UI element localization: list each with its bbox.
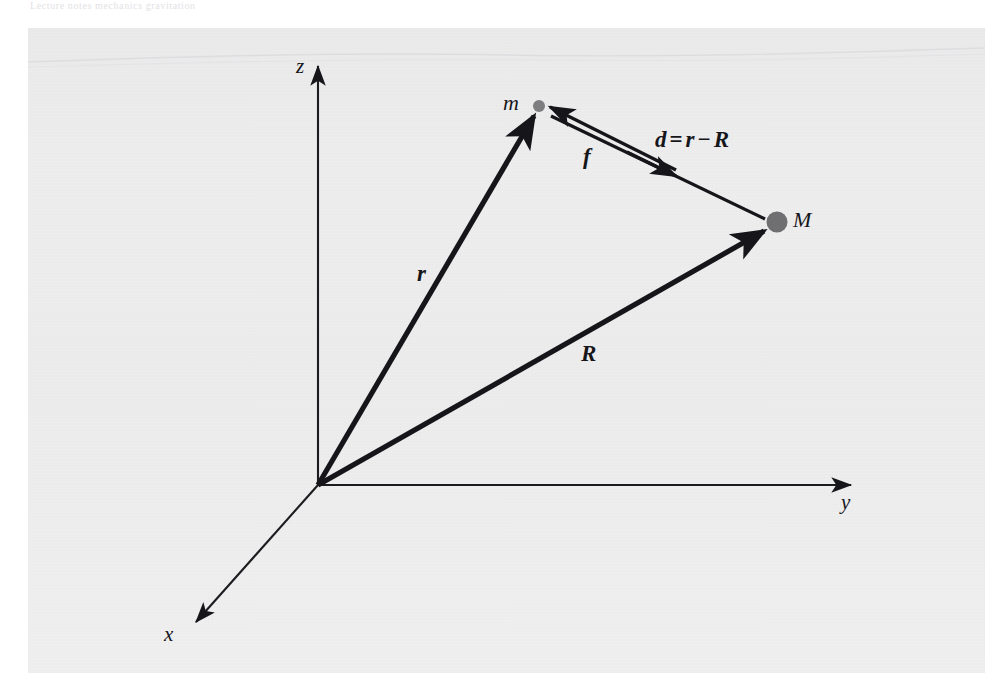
vector-r-shaft — [318, 116, 534, 485]
x-axis-line — [196, 485, 318, 622]
equation-lhs: d — [655, 127, 667, 152]
vector-R-shaft — [318, 231, 764, 485]
vector-R-label: R — [581, 342, 596, 365]
z-axis-label: z — [296, 56, 304, 77]
mass-M-label: M — [793, 209, 811, 231]
vector-R — [318, 231, 764, 485]
vector-diagram-canvas — [0, 0, 1004, 689]
mass-m-label: m — [503, 92, 519, 114]
equation-term-2: R — [714, 127, 729, 152]
mass-m-dot — [533, 100, 545, 112]
vector-r-label: r — [417, 262, 426, 285]
mass-M-dot — [767, 212, 788, 233]
equation-equals-operator: = — [667, 127, 686, 152]
y-axis-label: y — [841, 492, 850, 513]
coordinate-axes — [196, 66, 851, 622]
vector-f-label: f — [583, 145, 591, 168]
equation-minus-operator: − — [695, 127, 714, 152]
x-axis-label: x — [164, 624, 173, 645]
equation-term-1: r — [686, 127, 695, 152]
separation-equation-label: d=r−R — [655, 128, 729, 151]
vector-r — [318, 116, 534, 485]
figure-root: Lecture notes mechanics gravitation — [0, 0, 1004, 689]
vector-d-arrowhead-segment — [627, 152, 676, 176]
